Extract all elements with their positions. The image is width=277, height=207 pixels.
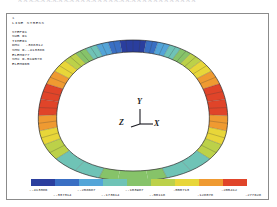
- axis-x-label: X: [154, 120, 159, 128]
- legend-label-upper-0: -.413386: [29, 188, 47, 192]
- legend-swatch-6: [175, 179, 199, 186]
- legend-label-upper-3: .050713: [173, 188, 189, 192]
- plot-frame: 1 LINE STRESS STEP=1 SUB =1 TIME=1 DMX.3…: [6, 13, 269, 200]
- axis-y-label: Y: [137, 98, 142, 106]
- legend-label-upper-2: -.103987: [125, 188, 143, 192]
- legend-label-lower-4: .277628: [245, 193, 261, 197]
- color-legend-bar: [31, 179, 247, 186]
- legend-swatch-5: [151, 179, 175, 186]
- axis-z-line: [131, 124, 140, 127]
- axis-triad: Y X Z: [118, 98, 168, 132]
- color-legend: -.413386-.258687-.103987.050713.205412-.…: [31, 179, 247, 207]
- legend-swatch-3: [103, 179, 127, 186]
- page-top-text: A A A.A.A A.A.A A.A A A A.A A A A A.A A.…: [18, 0, 196, 3]
- legend-label-upper-1: -.258687: [77, 188, 95, 192]
- legend-label-lower-3: .128078: [197, 193, 213, 197]
- legend-swatch-7: [199, 179, 223, 186]
- axis-z-label: Z: [119, 119, 124, 127]
- legend-swatch-1: [55, 179, 79, 186]
- legend-label-upper-4: .205412: [221, 188, 237, 192]
- legend-swatch-2: [79, 179, 103, 186]
- legend-swatch-4: [127, 179, 151, 186]
- legend-label-lower-1: -.173614: [101, 193, 119, 197]
- legend-swatch-0: [31, 179, 55, 186]
- page-top-text-strip: A A A.A.A A.A.A A.A A A A.A A A A A.A A.…: [0, 0, 277, 11]
- legend-swatch-8: [223, 179, 247, 186]
- legend-label-lower-2: -.00118: [149, 193, 165, 197]
- axis-triad-svg: [118, 98, 168, 132]
- legend-label-lower-0: -.337314: [53, 193, 71, 197]
